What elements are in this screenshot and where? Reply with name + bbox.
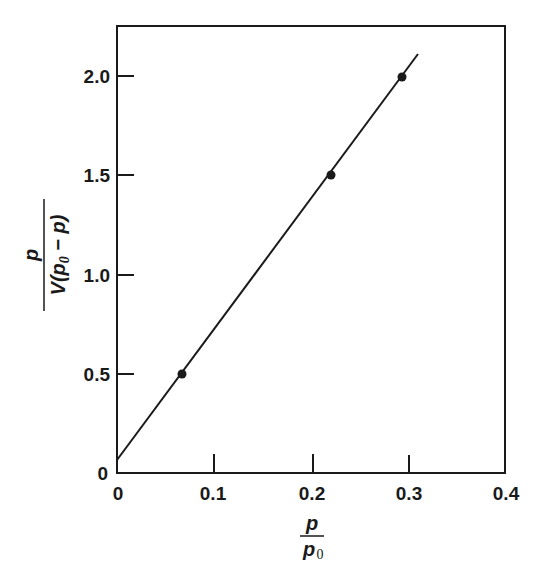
y-tick-label: 0.5 bbox=[84, 364, 111, 385]
y-label-denominator-subscript: 0 bbox=[57, 256, 72, 263]
x-tick-label: 0.2 bbox=[299, 483, 325, 504]
x-tick-labels: 0 0.1 0.2 0.3 0.4 bbox=[113, 483, 520, 504]
data-point bbox=[178, 370, 187, 379]
chart: 0 0.5 1.0 1.5 2.0 0 0.1 0.2 0.3 0.4 p p … bbox=[0, 0, 546, 578]
x-axis-label: p p 0 bbox=[300, 512, 324, 562]
x-label-numerator: p bbox=[305, 512, 318, 534]
y-tick-label: 2.0 bbox=[84, 66, 110, 87]
x-label-denominator: p bbox=[302, 538, 315, 560]
x-tick-label: 0.3 bbox=[396, 483, 422, 504]
plot-frame bbox=[117, 26, 505, 473]
x-tick-label: 0.4 bbox=[493, 483, 520, 504]
y-tick-labels: 0 0.5 1.0 1.5 2.0 bbox=[84, 66, 111, 484]
y-label-denominator-post: − p) bbox=[47, 214, 69, 256]
y-tick-label: 0 bbox=[97, 463, 108, 484]
data-point bbox=[398, 73, 407, 82]
x-axis-ticks bbox=[214, 454, 409, 473]
y-tick-label: 1.5 bbox=[84, 165, 111, 186]
y-label-numerator: p bbox=[20, 249, 42, 262]
y-axis-ticks bbox=[117, 76, 134, 374]
y-label-denominator-pre: V(p bbox=[47, 263, 69, 295]
fit-line bbox=[117, 54, 418, 460]
y-axis-label: p V(p0 − p) bbox=[20, 199, 72, 311]
x-tick-label: 0.1 bbox=[200, 483, 227, 504]
y-label-denominator: V(p0 − p) bbox=[47, 214, 72, 295]
data-point bbox=[327, 171, 336, 180]
y-tick-label: 1.0 bbox=[84, 265, 110, 286]
x-label-denominator-subscript: 0 bbox=[317, 547, 324, 562]
x-tick-label: 0 bbox=[113, 483, 124, 504]
